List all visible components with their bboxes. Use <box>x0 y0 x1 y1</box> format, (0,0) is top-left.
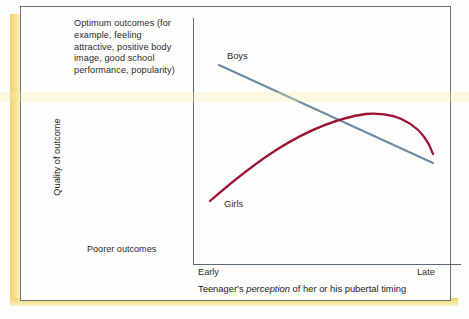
figure-shadow-left <box>10 14 20 306</box>
girls-series-line <box>210 114 433 201</box>
x-tick-late: Late <box>417 267 435 277</box>
y-axis-title: Quality of outcome <box>52 92 62 222</box>
series-label-girls: Girls <box>224 199 243 209</box>
x-caption-italic: perception <box>246 283 290 294</box>
x-caption-after: of her or his pubertal timing <box>290 283 406 294</box>
figure-frame: Optimum outcomes (for example, feeling a… <box>20 6 451 301</box>
series-label-boys: Boys <box>227 51 248 61</box>
x-caption-before: Teenager's <box>198 283 246 294</box>
poorer-outcomes-label: Poorer outcomes <box>87 244 156 254</box>
x-tick-early: Early <box>198 267 219 277</box>
boys-series-line <box>219 65 433 163</box>
x-axis-caption: Teenager's perception of her or his pube… <box>198 283 406 294</box>
figure-root: Optimum outcomes (for example, feeling a… <box>0 0 469 319</box>
optimum-outcomes-label: Optimum outcomes (for example, feeling a… <box>74 18 184 77</box>
